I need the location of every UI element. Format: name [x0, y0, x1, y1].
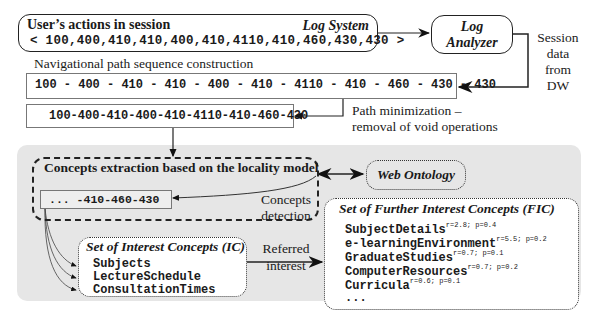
minimization-label-line2: removal of void operations: [352, 119, 498, 135]
minimization-label-line1: Path minimization –: [352, 103, 498, 119]
log-analyzer-line2: Analyzer: [432, 35, 512, 51]
log-analyzer-box: Log Analyzer: [431, 15, 513, 54]
nav-sequence: 100 - 400 - 410 - 410 - 400 - 410 - 4110…: [35, 78, 496, 92]
session-data-line1: Session: [528, 30, 588, 46]
web-ontology-label: Web Ontology: [377, 167, 455, 182]
locality-sequence: ... -410-460-430: [49, 193, 159, 206]
minimized-sequence: 100-400-410-400-410-4110-410-460-430: [49, 109, 308, 123]
ic-title: Set of Interest Concepts (IC): [86, 239, 245, 255]
session-data-line4: DW: [528, 78, 588, 94]
ic-item: LectureSchedule: [93, 270, 201, 284]
session-data-line3: from: [528, 62, 588, 78]
referred-line1: Referred: [256, 240, 316, 257]
web-ontology-box: Web Ontology: [366, 160, 466, 190]
referred-line2: interest: [256, 257, 316, 274]
ic-item: ConsultationTimes: [93, 283, 215, 297]
fic-item: ...: [345, 291, 367, 305]
further-interest-concepts-box: Set of Further Interest Concepts (FIC) S…: [324, 198, 579, 310]
fic-title: Set of Further Interest Concepts (FIC): [339, 201, 555, 217]
session-data-line2: data: [528, 46, 588, 62]
interest-concepts-box: Set of Interest Concepts (IC) Subjects L…: [78, 237, 247, 297]
log-analyzer-line1: Log: [432, 19, 512, 35]
log-system-label: Log System: [303, 18, 370, 34]
detection-line2: detection: [256, 208, 316, 224]
minimization-label: Path minimization – removal of void oper…: [352, 103, 498, 135]
minimized-sequence-box: 100-400-410-400-410-4110-410-460-430: [26, 104, 294, 128]
referred-interest-label: Referred interest: [256, 240, 316, 274]
nav-path-label: Navigational path sequence construction: [34, 56, 253, 72]
session-actions-box: User’s actions in session Log System < 1…: [18, 14, 378, 52]
session-sequence: < 100,400,410,410,400,410,4110,410,460,4…: [30, 34, 404, 48]
session-data-label: Session data from DW: [528, 30, 588, 94]
detection-line1: Concepts: [256, 192, 316, 208]
nav-sequence-box: 100 - 400 - 410 - 410 - 400 - 410 - 4110…: [26, 73, 457, 99]
concepts-extraction-title: Concepts extraction based on the localit…: [44, 160, 318, 176]
ic-item: Subjects: [93, 257, 151, 271]
session-title: User’s actions in session: [27, 17, 170, 33]
locality-sequence-box: ... -410-460-430: [40, 190, 172, 209]
concepts-detection-label: Concepts detection: [256, 192, 316, 224]
